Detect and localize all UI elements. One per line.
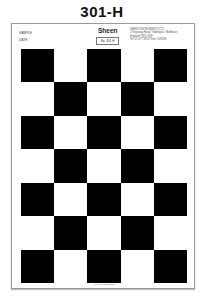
date-label: DATE <box>19 38 27 42</box>
white-square <box>87 149 120 182</box>
black-square <box>87 116 120 149</box>
white-square <box>121 116 154 149</box>
white-square <box>21 149 54 182</box>
chart-code-title: 301-H <box>0 3 204 20</box>
white-square <box>87 82 120 115</box>
black-square <box>54 82 87 115</box>
black-square <box>154 116 187 149</box>
black-square <box>54 216 87 249</box>
white-square <box>54 49 87 82</box>
checkerboard-grid <box>21 49 187 283</box>
black-square <box>21 49 54 82</box>
white-square <box>87 216 120 249</box>
white-square <box>54 183 87 216</box>
black-square <box>87 183 120 216</box>
black-square <box>121 149 154 182</box>
white-square <box>21 82 54 115</box>
opacity-chart-card: SAMPLE DATE Sheen No. 301-H SHEEN INSTRU… <box>11 23 195 289</box>
white-square <box>154 149 187 182</box>
black-square <box>154 183 187 216</box>
white-square <box>54 116 87 149</box>
black-square <box>121 82 154 115</box>
white-square <box>121 183 154 216</box>
brand-name: Sheen <box>98 27 118 34</box>
white-square <box>154 216 187 249</box>
sample-label: SAMPLE <box>19 31 32 35</box>
white-square <box>121 49 154 82</box>
white-square <box>121 250 154 283</box>
address-line: Tel: 01-977 3922 Telex: 928188 <box>130 38 190 41</box>
white-square <box>21 216 54 249</box>
black-square <box>87 250 120 283</box>
black-square <box>54 149 87 182</box>
chart-number-badge: No. 301-H <box>96 37 119 45</box>
white-square <box>54 250 87 283</box>
black-square <box>21 183 54 216</box>
black-square <box>87 49 120 82</box>
white-square <box>154 82 187 115</box>
black-square <box>21 250 54 283</box>
footer-text: Printed in England <box>82 283 126 286</box>
black-square <box>154 250 187 283</box>
black-square <box>21 116 54 149</box>
black-square <box>154 49 187 82</box>
black-square <box>121 216 154 249</box>
manufacturer-address: SHEEN INSTRUMENTS LTD 2 Kingsway Road, T… <box>130 28 190 41</box>
